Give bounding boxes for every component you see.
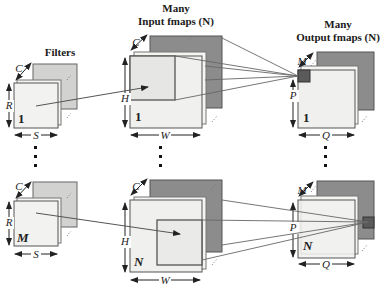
filter-height-label: R [5,99,13,111]
filter-stack-top: C R S 1 [4,62,77,141]
filter-channels-label: C [15,180,23,192]
output-channels-label: M [296,55,307,67]
depth-dots [212,259,217,265]
input-index: N [133,254,144,269]
output-height-label: P [289,89,297,101]
output-height-label: P [289,221,297,233]
depth-dots [362,245,367,251]
output-index: 1 [303,110,310,125]
input-title-line1: Many [162,2,190,14]
ellipsis-inputs [159,146,162,167]
cnn-convolution-diagram: Filters Many Input fmaps (N) Many Output… [0,0,391,290]
input-width-label: W [160,129,170,141]
depth-dots [67,231,71,236]
filter-height-label: R [5,216,13,228]
output-channels-label: M [296,184,307,196]
input-channels-label: C [132,36,140,48]
ellipsis-filters [34,146,37,167]
filter-width-label: S [33,248,39,260]
output-stack-top: M P Q 1 [287,52,374,141]
input-height-label: H [120,235,130,247]
depth-dots [362,116,367,122]
input-height-label: H [120,92,130,104]
output-title-line2: Output fmaps (N) [296,31,380,44]
output-width-label: Q [322,129,330,141]
input-width-label: W [160,274,170,286]
filter-index: M [16,230,29,245]
depth-dots [67,113,71,118]
filter-width-label: S [33,129,39,141]
input-index: 1 [135,109,142,124]
output-index: N [302,238,313,253]
input-title-line2: Input fmaps (N) [138,15,214,28]
input-stack-top: C H W 1 [119,35,222,141]
ellipsis-outputs [324,146,327,167]
output-title-line1: Many [324,18,352,30]
depth-dots [212,116,217,122]
input-receptive-window [157,220,202,265]
filter-stack-bottom: C R S M [4,180,77,260]
output-width-label: Q [322,258,330,270]
depth-dots [311,186,316,192]
filters-title: Filters [45,46,76,58]
filter-channels-label: C [15,62,23,74]
filter-index: 1 [18,111,25,126]
output-stack-bottom: M P Q N [287,181,374,270]
input-channels-label: C [132,180,140,192]
output-pixel [298,70,310,82]
depth-dots [311,60,316,66]
input-receptive-window [130,56,175,100]
